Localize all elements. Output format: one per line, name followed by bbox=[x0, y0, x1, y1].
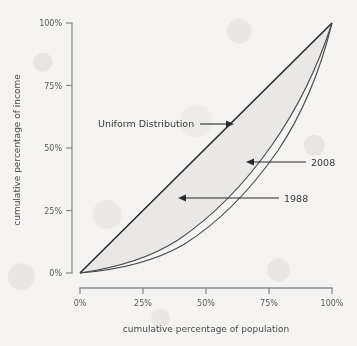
x-tick-label-0: 0% bbox=[74, 299, 87, 308]
y-tick-label-100: 100% bbox=[39, 19, 62, 28]
lorenz-curve-chart: 100% 75% 50% 25% 0% 0% 25% 50% 75% 100% … bbox=[0, 0, 357, 346]
x-tick-label-25: 25% bbox=[134, 299, 152, 308]
x-tick-label-50: 50% bbox=[197, 299, 215, 308]
y-tick-label-50: 50% bbox=[44, 144, 62, 153]
y-tick-label-0: 0% bbox=[49, 269, 62, 278]
x-tick-label-100: 100% bbox=[321, 299, 344, 308]
y-tick-label-75: 75% bbox=[44, 82, 62, 91]
uniform-distribution-line bbox=[80, 23, 332, 273]
y-tick-label-25: 25% bbox=[44, 207, 62, 216]
y-axis-title: cumulative percentage of income bbox=[12, 74, 22, 226]
x-tick-label-75: 75% bbox=[260, 299, 278, 308]
annotation-label-uniform-distribution: Uniform Distribution bbox=[98, 118, 194, 129]
x-axis-title: cumulative percentage of population bbox=[123, 324, 289, 334]
annotation-label-2008: 2008 bbox=[311, 157, 335, 168]
annotation-label-1988: 1988 bbox=[284, 193, 308, 204]
